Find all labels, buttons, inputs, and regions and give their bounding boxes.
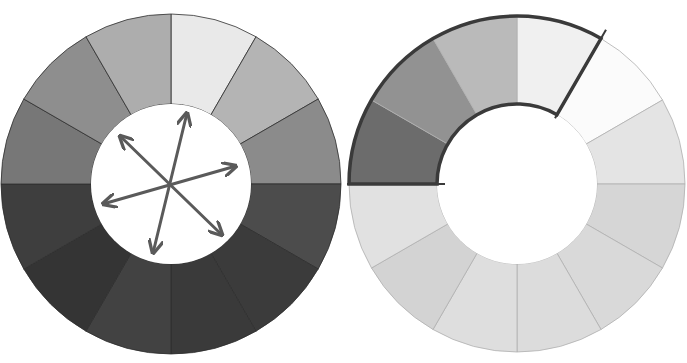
diagram-canvas — [0, 0, 687, 363]
value-wheel-range — [347, 16, 685, 352]
value-wheel-diagram — [0, 0, 687, 363]
value-wheel-full — [1, 14, 341, 354]
